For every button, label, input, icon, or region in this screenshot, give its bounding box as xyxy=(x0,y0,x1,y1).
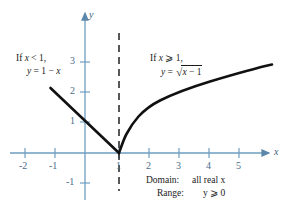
domain-value-var: x xyxy=(220,175,225,185)
piecewise-function-figure: x y -2 -1 1 2 3 4 5 3 2 1 -1 If x < 1, y… xyxy=(0,0,294,212)
annotation-left-if: If xyxy=(16,53,25,63)
y-tick-label-1: 1 xyxy=(70,115,75,126)
radicand: x − 1 xyxy=(181,65,202,79)
range-row: Range:y ⩾ 0 xyxy=(146,187,225,200)
annotation-right-rel: ⩾ 1, xyxy=(163,53,183,63)
annotation-right-if: If xyxy=(150,53,159,63)
annotation-right-eq: = xyxy=(165,67,175,77)
y-tick-label-2: 2 xyxy=(70,85,75,96)
domain-range-note: Domain:all real x Range:y ⩾ 0 xyxy=(146,174,225,201)
x-tick-label-5: 5 xyxy=(236,160,241,171)
y-axis-label: y xyxy=(89,9,93,20)
x-tick-label-4: 4 xyxy=(206,160,211,171)
x-tick-label-neg1: -1 xyxy=(49,160,57,171)
x-tick-label-1: 1 xyxy=(116,160,121,171)
x-tick-label-2: 2 xyxy=(146,160,151,171)
annotation-left-x2: x xyxy=(56,66,60,76)
annotation-left-eq: = 1 − xyxy=(31,66,56,76)
annotation-left-branch: If x < 1, y = 1 − x xyxy=(16,52,60,78)
annotation-right-line1: If x ⩾ 1, xyxy=(150,52,202,65)
annotation-left-rel: < 1, xyxy=(29,53,46,63)
annotation-right-line2: y = √x − 1 xyxy=(150,65,202,80)
range-key: Range: xyxy=(157,187,203,200)
x-tick-label-neg2: -2 xyxy=(19,160,27,171)
sqrt-expression: √x − 1 xyxy=(175,65,202,80)
annotation-left-line1: If x < 1, xyxy=(16,52,60,65)
domain-row: Domain:all real x xyxy=(146,174,225,187)
annotation-right-branch: If x ⩾ 1, y = √x − 1 xyxy=(150,52,202,80)
y-tick-label-neg1: -1 xyxy=(66,176,74,187)
domain-value-pre: all real xyxy=(192,175,220,185)
range-value-rest: ⩾ 0 xyxy=(208,188,226,198)
x-axis-label: x xyxy=(274,146,278,157)
x-tick-label-3: 3 xyxy=(176,160,181,171)
y-tick-label-3: 3 xyxy=(70,55,75,66)
domain-key: Domain: xyxy=(146,174,192,187)
annotation-left-line2: y = 1 − x xyxy=(16,65,60,78)
radicand-rest: − 1 xyxy=(187,67,202,77)
